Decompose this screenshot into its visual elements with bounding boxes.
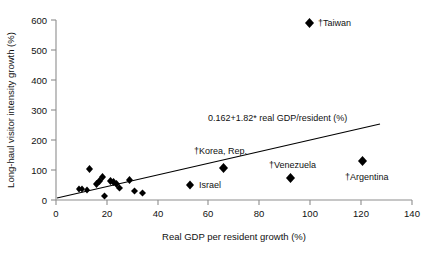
x-axis-title: Real GDP per resident growth (%)	[162, 231, 306, 242]
regression-equation-label: 0.162+1.82* real GDP/resident (%)	[208, 113, 347, 123]
x-tick-100: 100	[302, 208, 318, 219]
data-point-label-israel: Israel	[199, 180, 221, 190]
y-tick-0: 0	[42, 195, 47, 206]
data-point-label-korea: †Korea, Rep.	[194, 146, 247, 156]
data-point-label-argentina: †Argentina	[345, 172, 389, 182]
y-tick-300: 300	[31, 105, 47, 116]
y-axis-title: Long-haul visitor intensity growth (%)	[5, 32, 16, 188]
x-tick-40: 40	[153, 208, 164, 219]
y-tick-500: 500	[31, 45, 47, 56]
x-tick-60: 60	[203, 208, 214, 219]
scatter-chart: 600 500 400 300 200 100 0 0 20 40 60 80	[0, 0, 432, 257]
chart-canvas: 600 500 400 300 200 100 0 0 20 40 60 80	[0, 0, 432, 257]
y-tick-200: 200	[31, 135, 47, 146]
x-tick-0: 0	[53, 208, 58, 219]
x-tick-140: 140	[404, 208, 420, 219]
data-point-label-venezuela: †Venezuela	[269, 160, 316, 170]
y-tick-400: 400	[31, 75, 47, 86]
x-tick-120: 120	[353, 208, 369, 219]
y-tick-100: 100	[31, 165, 47, 176]
x-tick-20: 20	[102, 208, 113, 219]
data-point-label-taiwan: †Taiwan	[318, 18, 351, 28]
y-tick-600: 600	[31, 15, 47, 26]
x-tick-80: 80	[254, 208, 265, 219]
